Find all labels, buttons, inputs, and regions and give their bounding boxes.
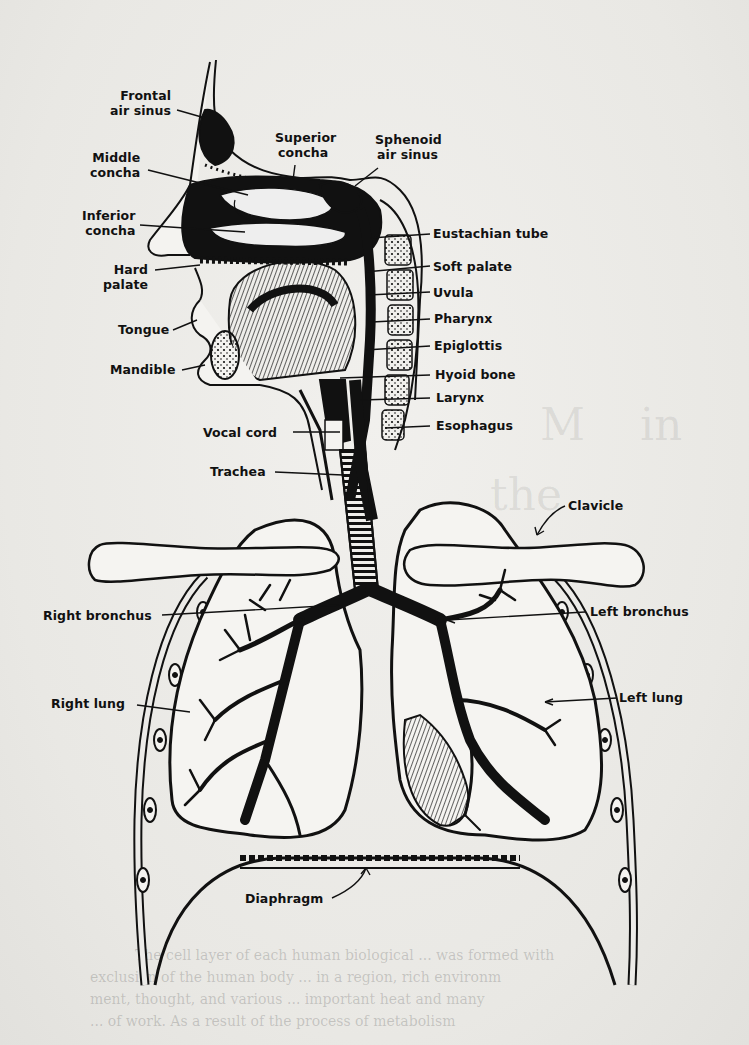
- label-line: air sinus: [110, 103, 171, 118]
- label-epiglottis: Epiglottis: [434, 338, 502, 353]
- label-esophagus: Esophagus: [436, 418, 513, 433]
- right-clavicle: [89, 543, 339, 582]
- label-line: Sphenoid: [375, 132, 442, 147]
- scanned-page: M in the The cell layer of each human bi…: [0, 0, 749, 1045]
- label-trachea: Trachea: [210, 464, 266, 479]
- label-diaphragm: Diaphragm: [245, 891, 323, 906]
- label-hard-palate: Hard palate: [103, 262, 148, 292]
- label-uvula: Uvula: [433, 285, 473, 300]
- label-hyoid-bone: Hyoid bone: [435, 367, 516, 382]
- label-left-lung: Left lung: [619, 690, 683, 705]
- label-superior-concha: Superior concha: [275, 130, 336, 160]
- label-middle-concha: Middle concha: [90, 150, 140, 180]
- label-inferior-concha: Inferior concha: [82, 208, 135, 238]
- label-vocal-cord: Vocal cord: [203, 425, 277, 440]
- label-line: concha: [82, 223, 135, 238]
- label-line: air sinus: [375, 147, 442, 162]
- diaphragm: [155, 858, 615, 985]
- trachea: [340, 450, 378, 590]
- head-section: [148, 60, 421, 520]
- label-soft-palate: Soft palate: [433, 259, 512, 274]
- label-line: Inferior: [82, 208, 135, 223]
- label-line: Frontal: [110, 88, 171, 103]
- label-line: palate: [103, 277, 148, 292]
- left-clavicle: [404, 543, 643, 586]
- label-line: Superior: [275, 130, 336, 145]
- label-tongue: Tongue: [118, 322, 169, 337]
- label-line: concha: [90, 165, 140, 180]
- label-mandible: Mandible: [110, 362, 176, 377]
- label-right-lung: Right lung: [51, 696, 125, 711]
- label-clavicle: Clavicle: [568, 498, 623, 513]
- label-line: concha: [275, 145, 336, 160]
- label-left-bronchus: Left bronchus: [590, 604, 689, 619]
- label-eustachian-tube: Eustachian tube: [433, 226, 548, 241]
- label-sphenoid-air-sinus: Sphenoid air sinus: [375, 132, 442, 162]
- label-line: Middle: [90, 150, 140, 165]
- label-pharynx: Pharynx: [434, 311, 492, 326]
- label-larynx: Larynx: [436, 390, 484, 405]
- label-right-bronchus: Right bronchus: [43, 608, 152, 623]
- label-line: Hard: [103, 262, 148, 277]
- label-frontal-air-sinus: Frontal air sinus: [110, 88, 171, 118]
